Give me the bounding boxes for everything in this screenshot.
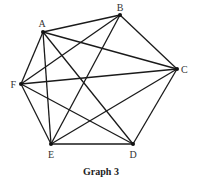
edge-c-f <box>21 69 177 84</box>
edge-a-e <box>43 32 51 144</box>
vertex-label-group: ABCDEF <box>10 2 188 160</box>
vertex-b <box>118 13 122 17</box>
edge-c-e <box>51 69 177 144</box>
vertex-label-c: C <box>181 64 188 75</box>
vertex-label-f: F <box>10 79 16 90</box>
vertex-f <box>19 82 23 86</box>
vertex-label-b: B <box>117 2 124 13</box>
vertex-label-d: D <box>129 149 136 160</box>
vertex-label-a: A <box>38 18 46 29</box>
edge-f-e <box>21 84 51 144</box>
graph-caption: Graph 3 <box>83 166 119 177</box>
vertex-label-e: E <box>48 149 54 160</box>
edge-a-d <box>43 32 133 144</box>
vertex-d <box>131 142 135 146</box>
vertex-c <box>175 67 179 71</box>
edge-c-d <box>133 69 177 144</box>
vertex-e <box>49 142 53 146</box>
edge-f-d <box>21 84 133 144</box>
vertex-a <box>41 30 45 34</box>
edge-group <box>21 15 177 144</box>
graph-diagram: ABCDEF Graph 3 <box>0 0 202 181</box>
